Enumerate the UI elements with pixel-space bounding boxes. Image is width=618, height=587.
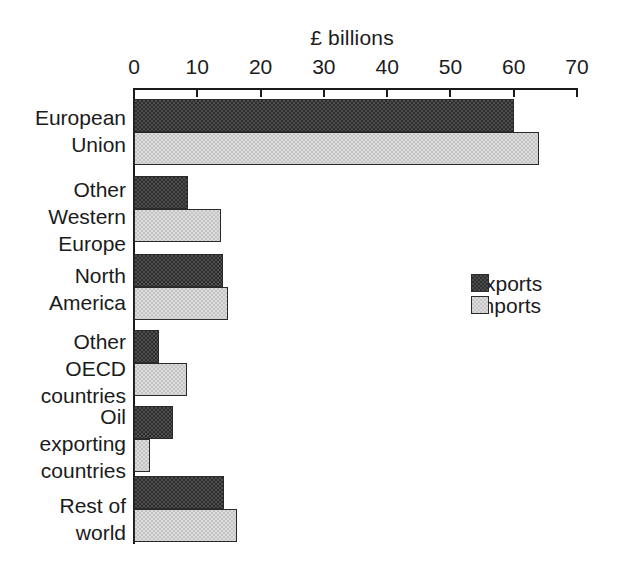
bar-exports-3 (134, 330, 159, 363)
x-axis-tickmark-60 (513, 88, 515, 97)
category-label-line: Oil (40, 403, 126, 430)
y-axis-category-label: OtherOECDcountries (41, 328, 126, 409)
bar-imports-1 (134, 209, 221, 242)
legend-item-exports: Exports (471, 272, 542, 294)
bar-imports-2 (134, 287, 228, 320)
category-label-line: world (59, 519, 126, 546)
imports-swatch-icon (471, 296, 489, 314)
category-label-line: Other (48, 176, 126, 203)
y-axis-category-label: Rest ofworld (59, 492, 126, 546)
exports-swatch-icon (471, 274, 489, 292)
category-label-line: America (49, 289, 126, 316)
category-label-line: European (35, 104, 126, 131)
x-axis-tickmark-30 (323, 88, 325, 97)
category-label-line: Western (48, 203, 126, 230)
bar-imports-5 (134, 509, 237, 542)
category-label-line: Union (35, 131, 126, 158)
x-axis-tickmark-20 (260, 88, 262, 97)
chart-legend: Exports Imports (471, 272, 542, 316)
bar-exports-2 (134, 254, 223, 287)
bar-imports-3 (134, 363, 187, 396)
legend-item-imports: Imports (471, 294, 542, 316)
category-label-line: exporting (40, 430, 126, 457)
x-axis-tickmark-10 (196, 88, 198, 97)
y-axis-category-label: NorthAmerica (49, 262, 126, 316)
bar-imports-4 (134, 439, 150, 472)
category-label-line: Other (41, 328, 126, 355)
bar-chart-figure: £ billions 010203040506070 EuropeanUnion… (0, 0, 618, 587)
category-label-line: Europe (48, 230, 126, 257)
bar-imports-0 (134, 132, 539, 165)
category-label-line: OECD (41, 355, 126, 382)
x-axis-tickmark-40 (386, 88, 388, 97)
x-axis-tickmark-50 (449, 88, 451, 97)
bar-exports-4 (134, 406, 173, 439)
category-label-line: North (49, 262, 126, 289)
y-axis-category-label: OtherWesternEurope (48, 176, 126, 257)
bar-exports-5 (134, 476, 224, 509)
bar-exports-0 (134, 99, 514, 132)
y-axis-category-label: Oilexportingcountries (40, 403, 126, 484)
category-label-line: Rest of (59, 492, 126, 519)
bar-exports-1 (134, 176, 188, 209)
y-axis-category-label: EuropeanUnion (35, 104, 126, 158)
category-label-line: countries (40, 457, 126, 484)
